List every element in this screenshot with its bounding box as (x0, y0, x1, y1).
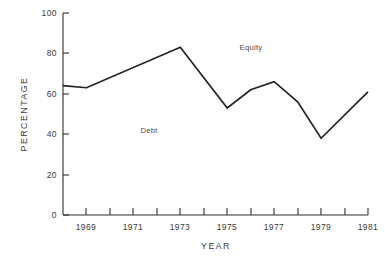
y-tick-label-60: 60 (47, 89, 57, 99)
y-axis-title: PERCENTAGE (19, 77, 29, 152)
y-axis-ticks (63, 13, 69, 215)
y-tick-label-0: 0 (52, 210, 57, 220)
x-tick-label-1977: 1977 (264, 222, 285, 232)
x-axis-tick-labels: 1969 1971 1973 1975 1977 1979 1981 (76, 222, 379, 232)
x-tick-label-1979: 1979 (311, 222, 332, 232)
y-axis-tick-labels: 100 80 60 40 20 0 (42, 8, 57, 220)
y-tick-label-100: 100 (42, 8, 57, 18)
x-tick-label-1969: 1969 (76, 222, 97, 232)
chart-canvas: 100 80 60 40 20 0 1969 1971 1 (0, 0, 385, 263)
x-tick-label-1981: 1981 (358, 222, 379, 232)
x-tick-label-1973: 1973 (170, 222, 191, 232)
annotation-equity: Equity (240, 43, 263, 52)
y-tick-label-20: 20 (47, 170, 57, 180)
x-axis-ticks (86, 208, 368, 215)
line-chart: 100 80 60 40 20 0 1969 1971 1 (0, 0, 385, 263)
data-series-line (63, 47, 368, 138)
x-axis-title: YEAR (201, 241, 231, 251)
x-tick-label-1971: 1971 (123, 222, 144, 232)
x-tick-label-1975: 1975 (217, 222, 238, 232)
y-tick-label-40: 40 (47, 129, 57, 139)
y-tick-label-80: 80 (47, 48, 57, 58)
annotation-debt: Debt (140, 126, 158, 135)
